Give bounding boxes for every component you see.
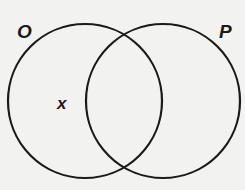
set-p-label: P: [219, 21, 232, 42]
point-x-label: x: [56, 94, 68, 113]
venn-diagram: O P x: [0, 0, 245, 190]
set-o-label: O: [17, 21, 32, 42]
